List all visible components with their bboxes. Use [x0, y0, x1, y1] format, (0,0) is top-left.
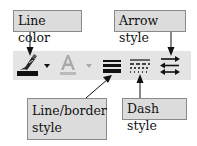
pointer-line-border-style [86, 79, 108, 98]
callout-pointer-arrows [0, 0, 197, 146]
